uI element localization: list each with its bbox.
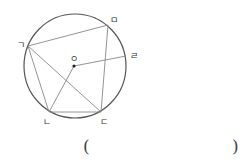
radius-o-n [49,66,74,112]
segment-m-d [101,25,108,112]
answer-close-paren: ) [232,136,239,156]
radius-o-r [74,56,126,66]
label-point-d: ㄷ [100,117,108,127]
circle-diagram: ㅇ ㄱ ㄴ ㄷ ㄹ ㅁ [0,0,250,135]
center-point [72,64,75,67]
label-point-m: ㅁ [110,15,118,25]
label-point-g: ㄱ [17,40,25,50]
answer-open-paren: ( [83,136,90,156]
answer-blank[interactable] [95,138,230,156]
label-center: ㅇ [70,54,78,64]
label-point-r: ㄹ [130,51,138,61]
label-point-n: ㄴ [43,117,51,127]
